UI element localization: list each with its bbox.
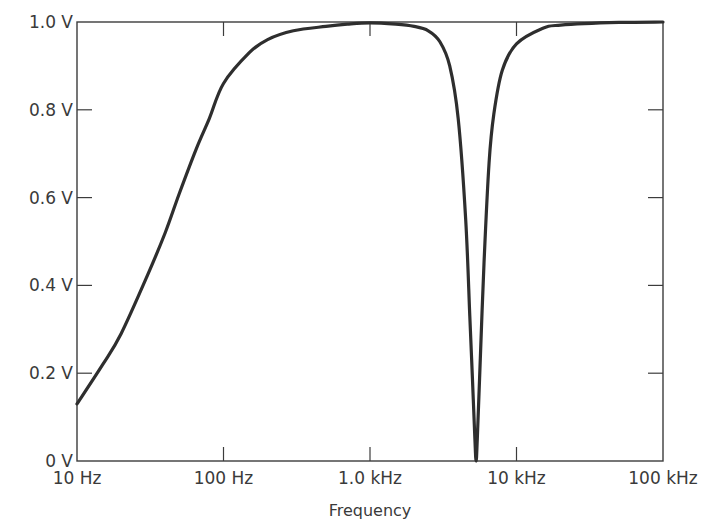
x-tick-label: 100 kHz [628, 468, 697, 488]
x-tick-label: 1.0 kHz [338, 468, 402, 488]
x-tick-label: 10 Hz [53, 468, 102, 488]
x-tick-label: 10 kHz [487, 468, 546, 488]
y-tick-label: 0.2 V [29, 363, 73, 383]
x-tick-label: 100 Hz [194, 468, 254, 488]
response-curve [77, 22, 663, 461]
plot-frame [77, 22, 663, 461]
x-axis-labels: 10 Hz100 Hz1.0 kHz10 kHz100 kHz [53, 468, 698, 488]
x-axis-title: Frequency [329, 501, 412, 520]
y-tick-label: 0.6 V [29, 188, 73, 208]
y-tick-label: 0.8 V [29, 100, 73, 120]
y-tick-label: 1.0 V [29, 12, 73, 32]
frequency-response-chart: 0 V0.2 V0.4 V0.6 V0.8 V1.0 V 10 Hz100 Hz… [0, 0, 715, 531]
y-axis-labels: 0 V0.2 V0.4 V0.6 V0.8 V1.0 V [29, 12, 73, 471]
y-tick-label: 0.4 V [29, 275, 73, 295]
axis-ticks [77, 22, 663, 461]
